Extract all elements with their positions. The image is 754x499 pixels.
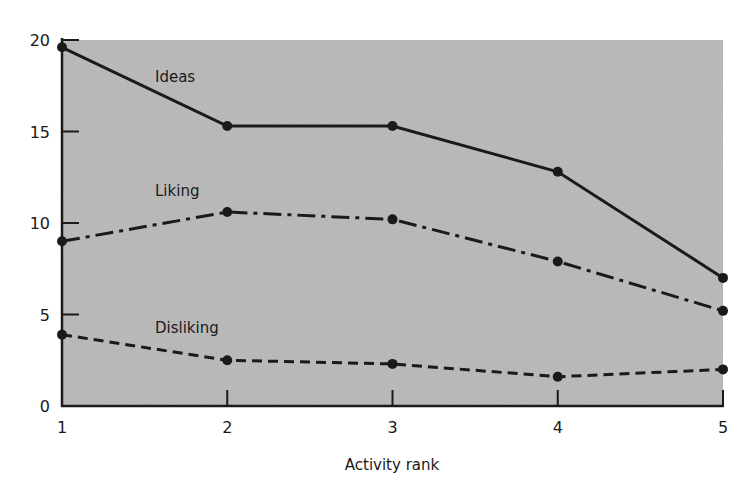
x-tick-label: 3 <box>387 418 397 437</box>
y-tick-label: 20 <box>30 31 50 50</box>
data-point <box>718 273 728 283</box>
y-tick-label: 15 <box>30 123 50 142</box>
line-chart: 0510152012345 IdeasLikingDisliking Activ… <box>0 0 754 499</box>
y-tick-label: 10 <box>30 214 50 233</box>
data-point <box>553 256 563 266</box>
data-point <box>57 236 67 246</box>
y-tick-label: 5 <box>40 306 50 325</box>
series-label-liking: Liking <box>155 182 199 200</box>
data-point <box>222 355 232 365</box>
x-tick-label: 4 <box>553 418 563 437</box>
data-point <box>553 372 563 382</box>
x-tick-label: 2 <box>222 418 232 437</box>
y-tick-label: 0 <box>40 397 50 416</box>
data-point <box>553 167 563 177</box>
data-point <box>718 364 728 374</box>
data-point <box>388 214 398 224</box>
data-point <box>222 121 232 131</box>
x-axis-title: Activity rank <box>345 456 440 474</box>
x-tick-label: 1 <box>57 418 67 437</box>
data-point <box>222 207 232 217</box>
data-point <box>57 42 67 52</box>
x-tick-label: 5 <box>718 418 728 437</box>
series-label-disliking: Disliking <box>155 319 219 337</box>
data-point <box>718 306 728 316</box>
data-point <box>57 330 67 340</box>
data-point <box>388 359 398 369</box>
data-point <box>388 121 398 131</box>
series-label-ideas: Ideas <box>155 68 195 86</box>
